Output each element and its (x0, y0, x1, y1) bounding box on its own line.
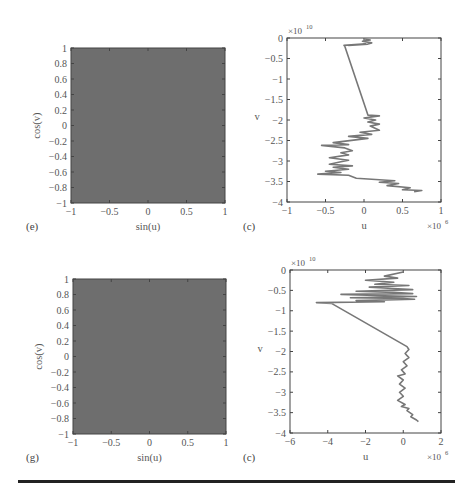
y-tick-label: −3 (272, 156, 283, 167)
x-tick-label: 0 (146, 206, 151, 217)
x-tick-label: 0.5 (182, 437, 195, 448)
y-tick-label: −0.5 (265, 53, 283, 64)
svg-text:6: 6 (445, 218, 449, 225)
y-tick-label: −1 (272, 74, 283, 85)
y-tick-label: −2.5 (265, 135, 283, 146)
y-tick-label: −3.5 (265, 176, 283, 187)
y-multiplier: ×10 (288, 26, 303, 36)
x-tick-label: −1 (66, 206, 77, 217)
y-tick-label: −4 (275, 428, 286, 439)
y-tick-label: −2.5 (268, 366, 286, 377)
x-tick-label: 1 (223, 206, 228, 217)
x-tick-label: −0.5 (316, 205, 334, 216)
y-tick-label: −2 (272, 115, 283, 126)
x-tick-label: −2 (360, 436, 371, 447)
y-tick-label: −0.2 (49, 136, 67, 147)
y-tick-label: −1 (56, 198, 67, 209)
x-axis-label: u (361, 220, 367, 231)
trajectory-line (316, 272, 418, 422)
y-axis-label: v (254, 111, 260, 122)
panel-label-c-bottom: (c) (243, 451, 255, 463)
x-tick-label: 0 (401, 436, 406, 447)
y-tick-label: −4 (272, 197, 283, 208)
svg-text:10: 10 (309, 255, 316, 262)
x-tick-label: −4 (322, 436, 333, 447)
y-tick-label: −1.5 (265, 94, 283, 105)
y-tick-label: −0.4 (51, 382, 69, 393)
y-tick-label: −0.6 (51, 398, 69, 409)
bottom-rule (18, 480, 455, 483)
svg-text:10: 10 (306, 23, 313, 30)
x-multiplier: ×10 (427, 452, 442, 462)
y-tick-label: −0.8 (49, 182, 67, 193)
y-tick-label: −1 (58, 429, 69, 440)
x-axis-label: u (363, 451, 369, 462)
y-tick-label: 1 (62, 43, 67, 54)
y-tick-label: 0.2 (57, 336, 70, 347)
y-tick-label: −0.2 (51, 367, 69, 378)
y-tick-label: 0.4 (55, 89, 68, 100)
y-tick-label: 0.6 (55, 74, 68, 85)
svg-text:6: 6 (445, 449, 449, 456)
y-tick-label: 0.4 (57, 320, 70, 331)
y-tick-label: 1 (64, 274, 69, 285)
y-tick-label: 0.8 (57, 289, 70, 300)
filled-region (71, 48, 225, 203)
x-tick-label: 0.5 (396, 205, 409, 216)
y-tick-label: −0.4 (49, 151, 67, 162)
y-tick-label: −1.5 (268, 326, 286, 337)
y-multiplier: ×10 (291, 258, 306, 268)
y-tick-label: 0 (281, 265, 286, 276)
x-axis-label: sin(u) (137, 452, 162, 464)
x-tick-label: 0 (362, 205, 367, 216)
chart-e: −1−0.500.5110.80.60.40.20−0.2−0.4−0.6−0.… (31, 43, 228, 234)
y-tick-label: −0.6 (49, 167, 67, 178)
figure: −1−0.500.5110.80.60.40.20−0.2−0.4−0.6−0.… (0, 0, 468, 491)
x-tick-label: −1 (282, 205, 293, 216)
chart-c1: −1−0.500.510−0.5−1−1.5−2−2.5−3−3.5−4uv×1… (254, 23, 449, 231)
x-axis-label: sin(u) (136, 221, 161, 233)
y-tick-label: 0.8 (55, 58, 68, 69)
figure-canvas: −1−0.500.5110.80.60.40.20−0.2−0.4−0.6−0.… (0, 0, 468, 491)
x-tick-label: −1 (68, 437, 79, 448)
x-tick-label: −0.5 (100, 206, 118, 217)
y-tick-label: −3 (275, 387, 286, 398)
panel-label-c-top: (c) (243, 220, 255, 232)
y-tick-label: −3.5 (268, 407, 286, 418)
y-tick-label: −0.5 (268, 285, 286, 296)
y-axis-label: v (257, 343, 263, 354)
x-multiplier: ×10 (427, 221, 442, 231)
y-tick-label: 0.2 (55, 105, 68, 116)
x-tick-label: 1 (439, 205, 444, 216)
y-tick-label: 0.6 (57, 305, 70, 316)
y-tick-label: 0 (62, 120, 67, 131)
plot-frame (287, 38, 441, 202)
y-axis-label: cos(v) (33, 343, 45, 370)
y-tick-label: −0.8 (51, 413, 69, 424)
y-tick-label: 0 (64, 351, 69, 362)
trajectory-line (318, 39, 422, 192)
x-tick-label: −6 (285, 436, 296, 447)
filled-region (73, 279, 226, 434)
y-tick-label: 0 (278, 33, 283, 44)
panel-label-e: (e) (26, 220, 38, 232)
x-tick-label: 0.5 (180, 206, 193, 217)
x-tick-label: 2 (439, 436, 444, 447)
x-tick-label: 1 (224, 437, 229, 448)
chart-g: −1−0.500.5110.80.60.40.20−0.2−0.4−0.6−0.… (33, 274, 229, 465)
y-tick-label: −1 (275, 305, 286, 316)
x-tick-label: 0 (147, 437, 152, 448)
panel-label-g: (g) (26, 451, 39, 463)
y-axis-label: cos(v) (31, 112, 43, 139)
x-tick-label: −0.5 (102, 437, 120, 448)
chart-c2: −6−4−2020−0.5−1−1.5−2−2.5−3−3.5−4uv×1010… (257, 255, 449, 462)
y-tick-label: −2 (275, 346, 286, 357)
